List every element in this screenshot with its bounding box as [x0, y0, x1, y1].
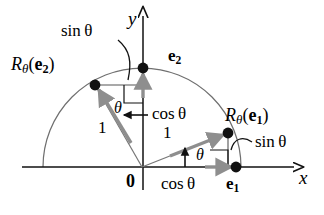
- leader-sin-theta-right: [231, 139, 252, 150]
- label-e1-sub: 1: [234, 182, 240, 195]
- axis-label-y: y: [128, 9, 136, 28]
- right-angle-marker-right: [210, 150, 228, 167]
- leader-sin-theta-top: [118, 40, 130, 80]
- label-e1-base: e: [226, 174, 234, 193]
- label-rot-e2-paren-close: ): [49, 54, 55, 74]
- label-rot-e2: Rθ(e2): [11, 55, 55, 76]
- right-angle-marker-top: [124, 85, 143, 103]
- label-e1: e1: [226, 175, 239, 195]
- label-unit-right: 1: [163, 124, 172, 141]
- point-e2: [138, 63, 149, 74]
- label-cos-theta-vertical: cos θ: [152, 105, 186, 122]
- label-cos-theta-horizontal: cos θ: [161, 175, 195, 192]
- label-angle-left: θ: [114, 100, 122, 116]
- origin-label: 0: [126, 172, 135, 190]
- label-rot-e1-paren-close: ): [263, 105, 269, 125]
- point-rot-e1: [223, 128, 234, 139]
- label-angle-right: θ: [196, 147, 204, 163]
- point-e1: [231, 162, 242, 173]
- label-unit-left: 1: [98, 119, 107, 136]
- label-rot-e1: Rθ(e1): [225, 106, 269, 127]
- rotation-unit-circle-figure: y x 0 e2 e1 Rθ(e2) Rθ(e1) sin θ sin θ co…: [0, 0, 324, 215]
- label-rot-e1-R: R: [225, 105, 236, 125]
- axis-label-x: x: [299, 168, 307, 187]
- label-e2-sub: 2: [176, 54, 182, 67]
- label-sin-theta-right: sin θ: [255, 133, 286, 150]
- label-e2: e2: [168, 47, 181, 67]
- label-rot-e2-R: R: [11, 54, 22, 74]
- label-e2-base: e: [168, 46, 176, 65]
- label-sin-theta-top: sin θ: [61, 22, 92, 39]
- point-rot-e2: [90, 80, 101, 91]
